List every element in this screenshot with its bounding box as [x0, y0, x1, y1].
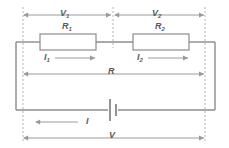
resistor-r1	[40, 34, 96, 50]
v2-label-subscript: 2	[158, 13, 161, 19]
r2-label-text: R	[155, 21, 162, 31]
i-total-label: I	[86, 117, 89, 126]
r2-label: R2	[155, 22, 165, 31]
r1-label: R1	[62, 22, 72, 31]
r1-label-text: R	[62, 21, 69, 31]
v1-label: V1	[60, 9, 69, 18]
v-total-label: V	[109, 131, 115, 140]
i2-label: I2	[137, 53, 143, 62]
v2-label: V2	[152, 9, 161, 18]
i1-label-subscript: 1	[47, 57, 50, 63]
i2-label-subscript: 2	[140, 57, 143, 63]
battery	[110, 99, 116, 121]
r1-label-subscript: 1	[69, 26, 72, 32]
r-total-label: R	[108, 67, 115, 76]
resistor-r2	[133, 34, 189, 50]
r2-label-subscript: 2	[162, 26, 165, 32]
series-resistor-circuit-diagram: V1 V2 R1 R2 I1 I2 R I V	[0, 0, 229, 148]
v1-label-subscript: 1	[66, 13, 69, 19]
i1-label: I1	[44, 53, 50, 62]
